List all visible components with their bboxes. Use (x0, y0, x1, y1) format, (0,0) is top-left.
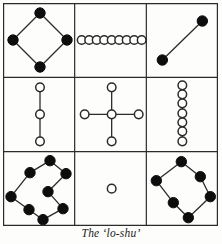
grid-cell-1 (107, 184, 116, 193)
open-circle (178, 118, 187, 127)
filled-dot (35, 8, 45, 18)
filled-dot (205, 191, 215, 201)
open-circle (36, 137, 45, 146)
open-circle (107, 184, 116, 193)
filled-dot (45, 155, 55, 165)
filled-dot (43, 186, 53, 196)
filled-dot (61, 168, 71, 178)
open-circle (107, 137, 116, 146)
filled-dot (157, 55, 167, 65)
open-circle (80, 110, 89, 119)
open-circle (178, 81, 187, 90)
open-circle (178, 90, 187, 99)
filled-dot (183, 212, 193, 222)
filled-dot (38, 214, 48, 224)
open-circle (178, 109, 187, 118)
filled-dot (58, 203, 68, 213)
lo-shu-grid-svg (3, 3, 218, 226)
filled-dot (6, 191, 16, 201)
filled-dot (25, 167, 35, 177)
filled-dot (176, 156, 186, 166)
open-circle (107, 83, 116, 92)
figure-caption: The ‘lo-shu’ (0, 227, 222, 239)
filled-dot (62, 35, 72, 45)
filled-dot (151, 175, 161, 185)
filled-dot (8, 35, 18, 45)
filled-dot (35, 62, 45, 72)
filled-dot (168, 197, 178, 207)
lo-shu-grid (3, 3, 218, 226)
filled-dot (195, 171, 205, 181)
lo-shu-figure: The ‘lo-shu’ (0, 0, 222, 244)
open-circle (107, 110, 116, 119)
grid-cell-9 (77, 36, 146, 45)
filled-dot (197, 16, 207, 26)
open-circle (36, 83, 45, 92)
open-circle (137, 36, 146, 45)
open-circle (178, 137, 187, 146)
filled-dot (24, 204, 34, 214)
open-circle (36, 110, 45, 119)
open-circle (178, 99, 187, 108)
open-circle (134, 110, 143, 119)
open-circle (178, 127, 187, 136)
